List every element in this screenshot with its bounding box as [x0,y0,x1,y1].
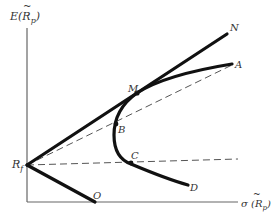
label-a: A [234,59,242,70]
y-axis-tilde-icon: ~ [23,0,31,11]
label-b: B [117,124,125,135]
portfolio-diagram: E(Rp) ~ σ (Rp) ~ Rf N A M B C D O [0,0,278,215]
label-c: C [131,150,139,161]
dashed-line-rf-b-a [27,65,232,165]
y-axis-label: E(Rp) [9,10,40,25]
line-rf-o [27,165,95,202]
point-c [129,161,134,166]
diagram-canvas: E(Rp) ~ σ (Rp) ~ Rf N A M B C D O [0,0,278,215]
x-axis-label: σ (Rp) [241,198,271,212]
label-d: D [189,182,198,193]
label-o: O [93,190,101,201]
label-m: M [127,83,139,94]
x-axis-tilde-icon: ~ [253,189,261,199]
label-rf: Rf [11,158,25,173]
label-n: N [229,22,240,33]
